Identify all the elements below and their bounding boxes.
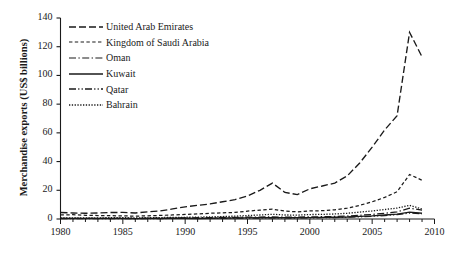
x-axis-tick-label: 1980 — [41, 226, 81, 237]
legend-item-oman: Oman — [68, 50, 209, 66]
y-axis-tick-label: 0 — [19, 212, 53, 223]
y-axis-tick-label: 100 — [19, 68, 53, 79]
y-axis-tick-label: 140 — [19, 11, 53, 22]
legend-item-kuwait: Kuwait — [68, 66, 209, 82]
legend-label: Kingdom of Saudi Arabia — [104, 37, 209, 48]
x-axis-tick-label: 2010 — [415, 226, 449, 237]
legend-label: Oman — [104, 52, 130, 63]
legend-label: United Arab Emirates — [104, 21, 193, 32]
legend-key-dash-dot-icon — [68, 53, 104, 63]
legend-key-dotted-icon — [68, 100, 104, 110]
legend-key-solid-icon — [68, 69, 104, 79]
y-axis-tick-label: 40 — [19, 155, 53, 166]
x-axis-tick-label: 1995 — [228, 226, 268, 237]
legend-key-short-dash-icon — [68, 37, 104, 47]
legend-label: Qatar — [104, 84, 128, 95]
y-axis-tick-label: 120 — [19, 40, 53, 51]
legend-item-bahrain: Bahrain — [68, 97, 209, 113]
series-line-kingdom-of-saudi-arabia — [61, 174, 423, 216]
legend-label: Bahrain — [104, 99, 138, 110]
legend-key-long-dash-icon — [68, 22, 104, 32]
x-axis-tick-label: 2005 — [352, 226, 392, 237]
legend-label: Kuwait — [104, 68, 135, 79]
x-axis-tick-label: 1985 — [103, 226, 143, 237]
chart-legend: United Arab Emirates Kingdom of Saudi Ar… — [68, 19, 209, 113]
x-axis-tick-label: 2000 — [290, 226, 330, 237]
y-axis-tick-label: 20 — [19, 183, 53, 194]
legend-item-qatar: Qatar — [68, 81, 209, 97]
legend-item-kingdom-of-saudi-arabia: Kingdom of Saudi Arabia — [68, 35, 209, 51]
y-axis-tick-label: 80 — [19, 97, 53, 108]
x-axis-tick-label: 1990 — [165, 226, 205, 237]
y-axis-tick-label: 60 — [19, 126, 53, 137]
legend-item-united-arab-emirates: United Arab Emirates — [68, 19, 209, 35]
legend-key-dash-dot-dot-icon — [68, 84, 104, 94]
